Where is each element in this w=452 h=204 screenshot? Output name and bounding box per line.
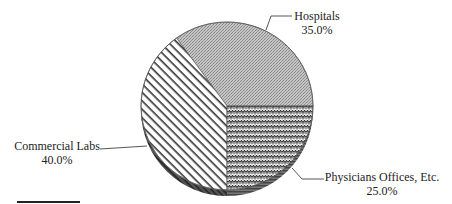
pie-top (141, 22, 313, 190)
label-hospitals-pct: 35.0% (262, 23, 372, 37)
footnote-rule (17, 201, 80, 203)
label-commercial-labs: Commercial Labs 40.0% (2, 139, 112, 167)
label-physicians-pct: 25.0% (312, 184, 452, 198)
label-physicians-name: Physicians Offices, Etc. (312, 170, 452, 184)
label-commercial-pct: 40.0% (2, 153, 112, 167)
label-hospitals: Hospitals 35.0% (262, 9, 372, 37)
label-commercial-name: Commercial Labs (2, 139, 112, 153)
label-physicians-offices: Physicians Offices, Etc. 25.0% (312, 170, 452, 198)
label-hospitals-name: Hospitals (262, 9, 372, 23)
